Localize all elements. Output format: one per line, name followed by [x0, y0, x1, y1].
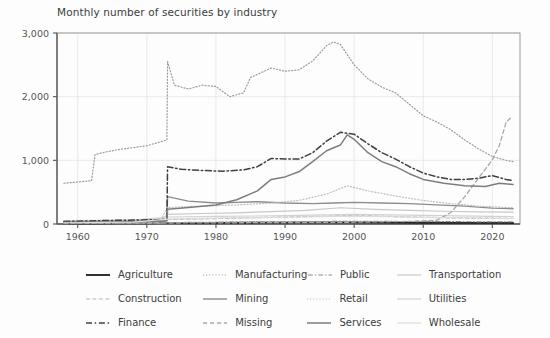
- legend-label-manufacturing: Manufacturing: [235, 269, 307, 280]
- legend-label-missing: Missing: [235, 317, 272, 328]
- legend-row: Construction Mining Retail Utilities: [85, 286, 505, 310]
- legend-label-utilities: Utilities: [429, 293, 467, 304]
- series-line-finance: [64, 132, 513, 221]
- svg-text:1960: 1960: [66, 231, 90, 242]
- legend-item-utilities[interactable]: Utilities: [396, 293, 505, 304]
- legend-label-mining: Mining: [235, 293, 268, 304]
- svg-text:1,000: 1,000: [22, 155, 49, 166]
- legend-item-retail[interactable]: Retail: [306, 293, 395, 304]
- svg-text:0: 0: [43, 219, 49, 230]
- legend-swatch-missing: [202, 317, 228, 328]
- legend-label-retail: Retail: [339, 293, 367, 304]
- svg-text:1990: 1990: [273, 231, 297, 242]
- legend-swatch-mining: [202, 293, 228, 304]
- svg-text:2,000: 2,000: [22, 91, 49, 102]
- grid-lines: [57, 33, 520, 224]
- legend-swatch-public: [307, 269, 333, 280]
- legend-label-public: Public: [340, 269, 370, 280]
- series-line-transportation: [64, 208, 513, 221]
- legend-row: Agriculture Manufacturing Public Transpo…: [85, 262, 505, 286]
- legend-swatch-finance: [85, 317, 111, 328]
- legend-item-agriculture[interactable]: Agriculture: [85, 269, 202, 280]
- legend-item-transportation[interactable]: Transportation: [396, 269, 505, 280]
- chart-legend: Agriculture Manufacturing Public Transpo…: [85, 262, 505, 334]
- svg-text:3,000: 3,000: [22, 28, 49, 39]
- legend-swatch-wholesale: [396, 317, 422, 328]
- legend-label-wholesale: Wholesale: [429, 317, 481, 328]
- svg-text:1970: 1970: [135, 231, 159, 242]
- axes: [53, 33, 520, 228]
- legend-swatch-manufacturing: [202, 269, 228, 280]
- legend-item-wholesale[interactable]: Wholesale: [396, 317, 505, 328]
- legend-swatch-services: [306, 317, 332, 328]
- plot-area: 01,0002,0003,000 19601970198019902000201…: [0, 0, 550, 260]
- legend-label-transportation: Transportation: [429, 269, 501, 280]
- svg-text:2010: 2010: [411, 231, 435, 242]
- legend-swatch-utilities: [396, 293, 422, 304]
- legend-item-finance[interactable]: Finance: [85, 317, 202, 328]
- legend-label-construction: Construction: [118, 293, 182, 304]
- svg-text:2020: 2020: [480, 231, 504, 242]
- legend-item-construction[interactable]: Construction: [85, 293, 202, 304]
- legend-swatch-transportation: [396, 269, 422, 280]
- x-axis-tick-labels: 1960197019801990200020102020: [66, 231, 505, 242]
- y-axis-tick-labels: 01,0002,0003,000: [22, 28, 49, 230]
- svg-text:2000: 2000: [342, 231, 366, 242]
- svg-text:1980: 1980: [204, 231, 228, 242]
- legend-item-mining[interactable]: Mining: [202, 293, 306, 304]
- legend-swatch-construction: [85, 293, 111, 304]
- series-line-missing: [64, 118, 510, 223]
- legend-row: Finance Missing Services Wholesale: [85, 310, 505, 334]
- legend-item-missing[interactable]: Missing: [202, 317, 306, 328]
- line-chart-svg: 01,0002,0003,000 19601970198019902000201…: [0, 0, 550, 260]
- legend-item-manufacturing[interactable]: Manufacturing: [202, 269, 307, 280]
- chart-figure: Monthly number of securities by industry…: [0, 0, 550, 338]
- series-line-manufacturing: [64, 42, 513, 183]
- legend-swatch-agriculture: [85, 269, 111, 280]
- legend-label-services: Services: [339, 317, 381, 328]
- legend-label-agriculture: Agriculture: [118, 269, 173, 280]
- data-series: [64, 42, 513, 224]
- legend-item-services[interactable]: Services: [306, 317, 395, 328]
- legend-swatch-retail: [306, 293, 332, 304]
- legend-label-finance: Finance: [118, 317, 156, 328]
- legend-item-public[interactable]: Public: [307, 269, 396, 280]
